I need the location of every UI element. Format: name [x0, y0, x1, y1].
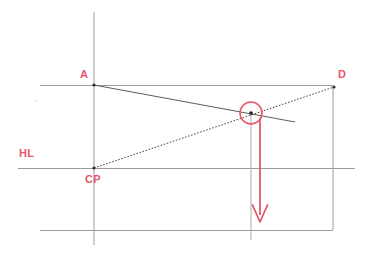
- construction-line-from-a: [94, 85, 295, 122]
- force-arrow-down: [253, 118, 268, 222]
- label-center-point: CP: [85, 174, 101, 185]
- diagram-canvas: A D HL CP: [0, 0, 367, 261]
- point-a-dot: [92, 83, 95, 86]
- perspective-diagram: [0, 0, 367, 261]
- point-d-dot: [332, 85, 335, 88]
- label-point-a: A: [80, 69, 88, 80]
- construction-line-cp-to-d: [94, 87, 334, 168]
- point-intersection-dot: [249, 111, 253, 115]
- scan-speck: [35, 100, 36, 101]
- label-horizon-line: HL: [19, 148, 34, 159]
- point-cp-dot: [92, 166, 95, 169]
- label-point-d: D: [338, 69, 346, 80]
